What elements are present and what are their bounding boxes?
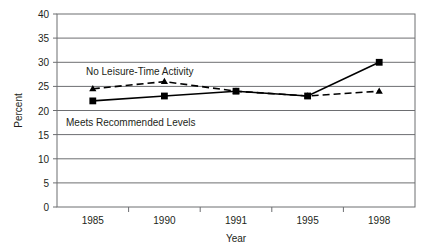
marker-square-1995: [304, 93, 311, 100]
y-tick-label-25: 25: [38, 81, 50, 92]
y-tick-label-5: 5: [43, 178, 49, 189]
y-tick-label-35: 35: [38, 33, 50, 44]
y-axis-title: Percent: [13, 93, 24, 128]
x-tick-label-1990: 1990: [153, 215, 176, 226]
chart-figure: 40 35 30 25 20 15 10 5 0 1985 1990 1991 …: [0, 0, 428, 251]
y-tick-label-15: 15: [38, 130, 50, 141]
marker-square-1985: [89, 98, 96, 105]
x-tick-label-1995: 1995: [296, 215, 319, 226]
x-axis-title: Year: [226, 233, 247, 244]
marker-square-1991: [233, 88, 240, 95]
y-axis-ticks: [53, 14, 57, 207]
x-tick-label-1991: 1991: [225, 215, 248, 226]
annotation-no-leisure-time-activity: No Leisure-Time Activity: [86, 66, 193, 77]
y-tick-label-30: 30: [38, 57, 50, 68]
x-axis-ticks: [129, 207, 344, 212]
y-tick-label-40: 40: [38, 9, 50, 20]
y-tick-label-0: 0: [43, 202, 49, 213]
line-chart: 40 35 30 25 20 15 10 5 0 1985 1990 1991 …: [0, 0, 428, 251]
marker-square-1990: [161, 93, 168, 100]
x-tick-label-1998: 1998: [368, 215, 391, 226]
x-tick-label-1985: 1985: [82, 215, 105, 226]
y-tick-label-10: 10: [38, 154, 50, 165]
y-tick-label-20: 20: [38, 106, 50, 117]
y-tick-labels: 40 35 30 25 20 15 10 5 0: [38, 9, 50, 213]
marker-square-1998: [376, 59, 383, 66]
annotation-meets-recommended-levels: Meets Recommended Levels: [66, 117, 196, 128]
x-tick-labels: 1985 1990 1991 1995 1998: [82, 215, 391, 226]
